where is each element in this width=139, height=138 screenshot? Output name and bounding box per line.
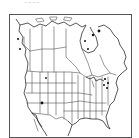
canada-us-border [27, 71, 116, 77]
occurrence-dot [104, 78, 106, 80]
occurrence-dot [103, 84, 105, 86]
arctic-coastline [20, 21, 86, 27]
occurrence-dot [98, 30, 101, 33]
great-lakes [86, 77, 104, 81]
occurrence-dot [87, 48, 89, 50]
hudson-bay [80, 25, 98, 53]
occurrence-dot [17, 38, 19, 40]
occurrence-dot [92, 34, 94, 36]
occurrence-dot [19, 48, 21, 50]
map-caption: — — — — [24, 0, 72, 4]
occurrence-dot [84, 40, 86, 42]
florida [98, 117, 110, 129]
pacific-coastline [16, 19, 47, 136]
occurrence-dot [45, 77, 47, 79]
labrador-coast [98, 25, 127, 77]
north-america-map [10, 15, 131, 137]
gulf-coastline [68, 118, 98, 125]
distribution-map [9, 14, 132, 138]
occurrence-dot [107, 82, 109, 84]
occurrence-dot [106, 87, 108, 89]
occurrence-dot [41, 102, 44, 105]
